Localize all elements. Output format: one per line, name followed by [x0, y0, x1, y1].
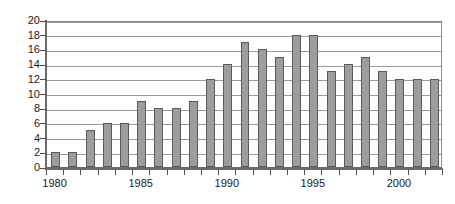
y-axis-tick-label: 0	[2, 162, 40, 173]
x-axis-tick-label: 1985	[128, 177, 152, 189]
bar	[120, 123, 129, 167]
bar	[68, 152, 77, 167]
bar-chart: 02468101214161820 19801985199019952000	[0, 0, 455, 204]
x-tick	[390, 170, 391, 175]
bar	[154, 108, 163, 167]
y-axis-tick-label: 16	[2, 44, 40, 55]
y-tick-18	[40, 35, 46, 36]
y-tick-10	[40, 94, 46, 95]
x-axis-tick-label: 1995	[301, 177, 325, 189]
x-axis-tick-label: 1980	[42, 177, 66, 189]
bar	[344, 64, 353, 167]
y-axis-tick-label: 14	[2, 59, 40, 70]
x-tick	[287, 170, 288, 175]
x-tick	[425, 170, 426, 175]
x-tick	[253, 170, 254, 175]
bar	[51, 152, 60, 167]
y-tick-16	[40, 50, 46, 51]
bar	[206, 79, 215, 167]
bar	[189, 101, 198, 167]
bar	[103, 123, 112, 167]
bar	[172, 108, 181, 167]
y-axis-labels: 02468101214161820	[0, 0, 40, 204]
bar	[395, 79, 404, 167]
x-tick	[115, 170, 116, 175]
bar	[292, 35, 301, 167]
y-axis-tick-label: 6	[2, 118, 40, 129]
x-tick	[442, 170, 443, 175]
x-tick	[46, 170, 47, 175]
bar	[223, 64, 232, 167]
x-axis-line	[45, 168, 443, 170]
x-tick	[218, 170, 219, 175]
bar	[430, 79, 439, 167]
x-tick	[132, 170, 133, 175]
y-axis-tick-label: 4	[2, 133, 40, 144]
bar	[241, 42, 250, 167]
x-tick	[235, 170, 236, 175]
x-tick	[304, 170, 305, 175]
y-axis-tick-label: 2	[2, 147, 40, 158]
x-tick	[356, 170, 357, 175]
x-tick	[149, 170, 150, 175]
y-tick-20	[40, 21, 46, 22]
y-tick-14	[40, 65, 46, 66]
x-tick	[408, 170, 409, 175]
bar	[258, 49, 267, 167]
y-tick-8	[40, 109, 46, 110]
x-tick	[98, 170, 99, 175]
y-axis-tick-label: 18	[2, 30, 40, 41]
x-tick	[167, 170, 168, 175]
y-tick-2	[40, 153, 46, 154]
y-axis-tick-label: 20	[2, 15, 40, 26]
x-axis-tick-label: 2000	[387, 177, 411, 189]
bar	[275, 57, 284, 167]
y-tick-4	[40, 138, 46, 139]
bar	[86, 130, 95, 167]
bar	[378, 71, 387, 167]
bar	[309, 35, 318, 167]
x-tick	[201, 170, 202, 175]
y-axis-tick-label: 8	[2, 103, 40, 114]
bar	[327, 71, 336, 167]
y-axis-tick-label: 10	[2, 89, 40, 100]
bar	[361, 57, 370, 167]
x-tick	[184, 170, 185, 175]
x-tick	[321, 170, 322, 175]
bars-container	[47, 22, 441, 167]
bar	[137, 101, 146, 167]
x-axis-tick-label: 1990	[215, 177, 239, 189]
bar	[413, 79, 422, 167]
x-tick	[373, 170, 374, 175]
x-tick	[63, 170, 64, 175]
y-axis-tick-label: 12	[2, 74, 40, 85]
x-tick	[80, 170, 81, 175]
y-tick-0	[40, 168, 46, 169]
x-tick	[339, 170, 340, 175]
y-tick-12	[40, 79, 46, 80]
plot-area	[46, 21, 442, 168]
x-tick	[270, 170, 271, 175]
y-tick-6	[40, 123, 46, 124]
